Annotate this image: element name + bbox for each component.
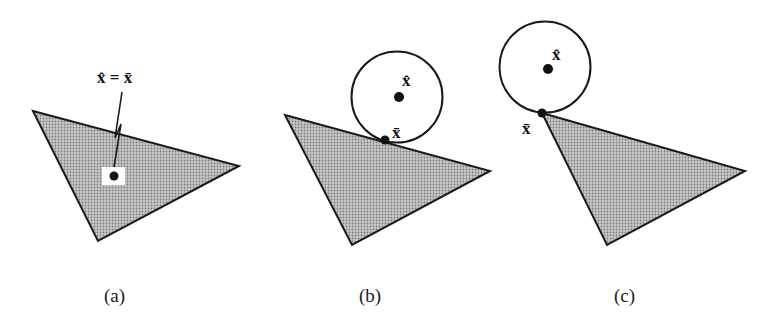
point-x: [110, 172, 119, 181]
panel-a: x̂ = x̄ (a): [33, 68, 239, 307]
label-x-hat: x̂: [552, 45, 561, 64]
caption-b: (b): [359, 285, 381, 307]
triangle-set: [542, 113, 745, 245]
point-x-hat: [543, 64, 553, 74]
figure-canvas: x̂ = x̄ (a) x̂ x̄ (b) x̂ x̄ (c): [0, 0, 779, 330]
label-x-bar: x̄: [522, 119, 531, 138]
panel-b: x̂ x̄ (b): [285, 52, 490, 308]
caption-a: (a): [104, 285, 125, 307]
panel-c: x̂ x̄ (c): [500, 22, 746, 308]
triangle-set: [33, 111, 239, 241]
triangle-set: [285, 115, 490, 245]
label-x-bar: x̄: [392, 123, 401, 142]
point-x-bar: [538, 109, 547, 118]
caption-c: (c): [614, 285, 635, 307]
label-x-hat-equals-x-bar: x̂ = x̄: [97, 68, 133, 87]
point-x-hat: [394, 92, 404, 102]
label-x-hat: x̂: [402, 71, 411, 90]
point-x-bar: [381, 136, 390, 145]
